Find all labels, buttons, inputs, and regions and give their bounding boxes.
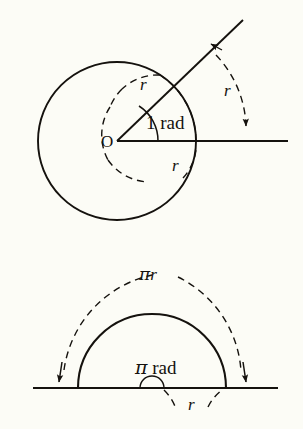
one-rad-label: 1 rad bbox=[146, 113, 185, 132]
pi-symbol-arc: π bbox=[139, 264, 150, 284]
radius-label-lower: r bbox=[172, 157, 179, 174]
dashed-arc-r-below-right bbox=[208, 390, 222, 407]
rad-word: rad bbox=[152, 357, 176, 378]
dashed-arc-r-lower-left bbox=[108, 160, 148, 182]
r-symbol-arc: r bbox=[150, 265, 157, 284]
pi-symbol-angle: π bbox=[135, 356, 148, 378]
figure-canvas: O 1 rad r r r πr π rad r bbox=[0, 0, 303, 429]
dashed-arc-r-upper-left-tail bbox=[110, 89, 122, 107]
radius-label-below-baseline: r bbox=[188, 396, 195, 413]
dashed-arc-r-below-left bbox=[164, 390, 176, 409]
radius-label-upper-left: r bbox=[140, 76, 147, 93]
pi-rad-label: π rad bbox=[135, 358, 177, 377]
pi-radians-panel bbox=[33, 275, 278, 409]
dashed-arc-r-outer-right bbox=[216, 55, 246, 126]
arc-length-pir-label: πr bbox=[139, 266, 157, 283]
pir-arrow-right bbox=[243, 362, 246, 382]
radius-label-outer-right: r bbox=[224, 82, 231, 99]
origin-label: O bbox=[101, 133, 113, 150]
pir-arrow-left bbox=[59, 362, 62, 382]
